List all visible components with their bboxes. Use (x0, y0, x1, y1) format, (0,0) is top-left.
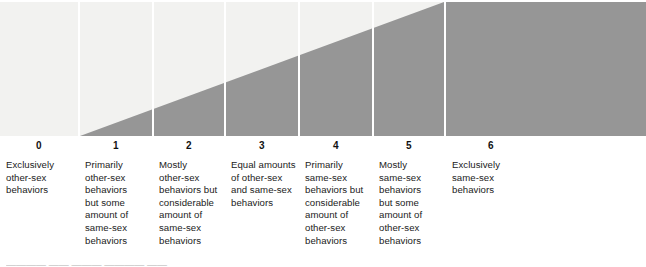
scale-number-1: 1 (80, 136, 152, 152)
scale-description-3: Equal amounts of other-sex and same-sex … (226, 152, 298, 209)
continuum-svg (0, 2, 646, 136)
scale-description-6: Exclusively same-sex behaviors (446, 152, 566, 197)
continuum-graphic-band (0, 2, 646, 136)
scale-description-5: Mostly same-sex behaviors but some amoun… (374, 152, 444, 247)
scale-number-5: 5 (374, 136, 444, 152)
scale-number-3: 3 (226, 136, 298, 152)
scale-description-2: Mostly other-sex behaviors but considera… (154, 152, 224, 247)
scale-label-columns: 0 Exclusively other-sex behaviors 1 Prim… (0, 136, 646, 267)
scale-column-2: 2 Mostly other-sex behaviors but conside… (154, 136, 224, 267)
scale-description-1: Primarily other-sex behaviors but some a… (80, 152, 152, 247)
scale-column-5: 5 Mostly same-sex behaviors but some amo… (374, 136, 444, 267)
scale-column-3: 3 Equal amounts of other-sex and same-se… (226, 136, 298, 267)
orientation-continuum-figure: 0 Exclusively other-sex behaviors 1 Prim… (0, 0, 646, 267)
scale-number-2: 2 (154, 136, 224, 152)
scale-column-0: 0 Exclusively other-sex behaviors (0, 136, 78, 267)
scale-description-4: Primarily same-sex behaviors but conside… (300, 152, 372, 247)
scale-column-1: 1 Primarily other-sex behaviors but some… (80, 136, 152, 267)
scale-number-0: 0 (0, 136, 78, 152)
scale-column-6: 6 Exclusively same-sex behaviors (446, 136, 566, 267)
scale-column-4: 4 Primarily same-sex behaviors but consi… (300, 136, 372, 267)
scale-description-0: Exclusively other-sex behaviors (0, 152, 78, 197)
scale-number-4: 4 (300, 136, 372, 152)
scale-number-6: 6 (446, 136, 566, 152)
cropped-caption-text: ———— —— ——— ———— —— (6, 259, 306, 267)
cropped-caption-fragment: ———— —— ——— ———— —— (6, 259, 306, 267)
